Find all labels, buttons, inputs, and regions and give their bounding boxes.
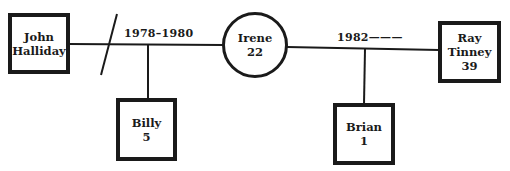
person-irene: Irene 22 xyxy=(222,12,288,78)
name: Irene xyxy=(238,31,272,45)
name-line-1: John xyxy=(24,30,54,44)
relationship-label-john-irene: 1978–1980 xyxy=(124,27,193,40)
marriage-line-irene-ray xyxy=(287,47,439,50)
person-ray-tinney: Ray Tinney 39 xyxy=(438,21,501,83)
name-line-2: Halliday xyxy=(12,44,66,58)
relationship-label-irene-ray: 1982——— xyxy=(337,31,403,44)
person-john-halliday: John Halliday xyxy=(8,13,70,74)
age: 5 xyxy=(142,130,150,144)
person-billy: Billy 5 xyxy=(116,98,177,161)
age: 22 xyxy=(247,45,263,59)
age: 1 xyxy=(360,134,368,148)
name-line-1: Ray xyxy=(458,31,482,45)
child-line-brian xyxy=(364,49,365,104)
person-brian: Brian 1 xyxy=(333,103,395,165)
name-line-2: Tinney xyxy=(448,45,492,59)
name: Brian xyxy=(346,120,382,134)
age: 39 xyxy=(461,59,477,73)
marriage-line-john-irene xyxy=(69,44,223,45)
name: Billy xyxy=(132,116,162,130)
